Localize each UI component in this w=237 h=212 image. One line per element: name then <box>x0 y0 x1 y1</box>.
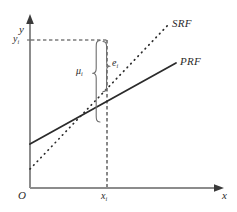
origin-label: O <box>18 190 26 201</box>
prf-label: PRF <box>180 56 201 67</box>
x-i-tick-label-sub: i <box>105 195 107 202</box>
prf-line <box>30 63 176 144</box>
x-axis-label: x <box>222 190 227 201</box>
x-i-tick-label: xi <box>101 191 107 201</box>
disturbance-label: μi <box>76 66 83 76</box>
residual-label: ei <box>112 58 118 68</box>
srf-label: SRF <box>172 18 192 29</box>
disturbance-brace <box>93 41 100 123</box>
y-i-tick-label-sub: i <box>17 38 19 45</box>
residual-label-sub: i <box>116 62 118 69</box>
regression-figure: y yi O xi x SRF PRF ei μi <box>0 0 237 212</box>
y-axis-arrowhead <box>26 14 34 24</box>
disturbance-label-sub: i <box>81 70 83 77</box>
y-axis-label: y <box>19 24 24 35</box>
y-i-tick-label: yi <box>13 34 19 44</box>
figure-canvas <box>0 0 237 212</box>
srf-line <box>30 25 168 169</box>
